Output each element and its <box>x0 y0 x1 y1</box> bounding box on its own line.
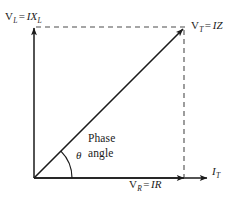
vr-quantity-sub: R <box>137 184 142 193</box>
vl-quantity: V <box>5 10 13 22</box>
vt-value: IZ <box>213 19 223 31</box>
phase-angle-arc <box>61 151 72 178</box>
vl-quantity-sub: L <box>13 16 17 25</box>
theta-symbol-label: θ <box>76 149 82 162</box>
vt-quantity: V <box>191 19 199 31</box>
phase-angle-caption: Phase angle <box>88 131 115 160</box>
phase-angle-line2: angle <box>88 146 115 161</box>
vr-quantity: V <box>129 178 137 190</box>
phase-angle-line1: Phase <box>88 132 115 144</box>
vr-value: IR <box>151 178 162 190</box>
vl-value: IX <box>27 10 38 22</box>
total-voltage-label: VT=IZ <box>191 19 223 32</box>
vl-value-sub: L <box>37 16 41 25</box>
vertical-axis-label: VL=IXL <box>5 10 42 23</box>
it-value-sub: T <box>216 171 220 180</box>
vt-equals: = <box>203 19 212 31</box>
horizontal-axis-label: IT <box>212 165 220 178</box>
phasor-diagram-figure: VL=IXL VT=IZ VR=IR IT θ Phase angle <box>0 0 242 203</box>
vl-equals: = <box>17 10 26 22</box>
resistive-voltage-label: VR=IR <box>129 178 162 191</box>
vt-quantity-sub: T <box>199 25 203 34</box>
vr-equals: = <box>142 178 151 190</box>
